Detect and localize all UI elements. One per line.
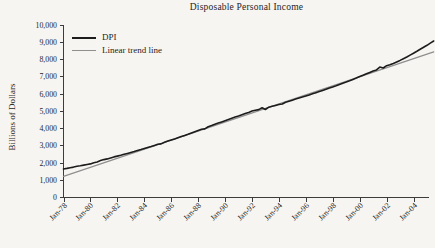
dpi-line-swatch bbox=[72, 37, 96, 39]
y-tick-label: 8,000 bbox=[39, 55, 57, 64]
x-tick-label: Jan-90 bbox=[208, 201, 229, 222]
legend: DPI Linear trend line bbox=[72, 31, 162, 57]
x-tick-label: Jan-98 bbox=[316, 201, 337, 222]
y-tick-label: 10,000 bbox=[36, 21, 58, 30]
legend-label-trend: Linear trend line bbox=[102, 44, 162, 57]
x-tick-label: Jan-04 bbox=[397, 201, 418, 222]
dpi-line bbox=[64, 41, 434, 169]
chart-figure: Disposable Personal Income Billions of D… bbox=[0, 0, 435, 248]
plot-area: 01,0002,0003,0004,0005,0006,0007,0008,00… bbox=[0, 0, 435, 248]
y-tick-label: 7,000 bbox=[39, 72, 57, 81]
y-tick-label: 3,000 bbox=[39, 141, 57, 150]
x-tick-label: Jan-78 bbox=[47, 201, 68, 222]
y-tick-label: 4,000 bbox=[39, 124, 57, 133]
x-tick-label: Jan-94 bbox=[262, 201, 283, 222]
y-axis-title: Billions of Dollars bbox=[7, 84, 17, 151]
x-tick-label: Jan-80 bbox=[73, 201, 94, 222]
x-tick-label: Jan-86 bbox=[154, 201, 175, 222]
trend-line-swatch bbox=[72, 50, 96, 51]
y-tick-label: 0 bbox=[53, 193, 57, 202]
x-tick-label: Jan-82 bbox=[100, 201, 121, 222]
y-tick-label: 5,000 bbox=[39, 107, 57, 116]
x-tick-label: Jan-92 bbox=[235, 201, 256, 222]
x-tick-label: Jan-96 bbox=[289, 201, 310, 222]
y-tick-label: 2,000 bbox=[39, 159, 57, 168]
trend-line bbox=[64, 52, 434, 176]
x-tick-label: Jan-00 bbox=[343, 201, 364, 222]
legend-item-trend: Linear trend line bbox=[72, 44, 162, 57]
x-tick-label: Jan-88 bbox=[181, 201, 202, 222]
chart-title: Disposable Personal Income bbox=[63, 2, 430, 12]
y-tick-label: 6,000 bbox=[39, 90, 57, 99]
y-tick-label: 1,000 bbox=[39, 176, 57, 185]
x-tick-label: Jan-02 bbox=[370, 201, 391, 222]
legend-label-dpi: DPI bbox=[102, 31, 117, 44]
x-tick-label: Jan-84 bbox=[127, 201, 148, 222]
y-tick-label: 9,000 bbox=[39, 38, 57, 47]
legend-item-dpi: DPI bbox=[72, 31, 162, 44]
